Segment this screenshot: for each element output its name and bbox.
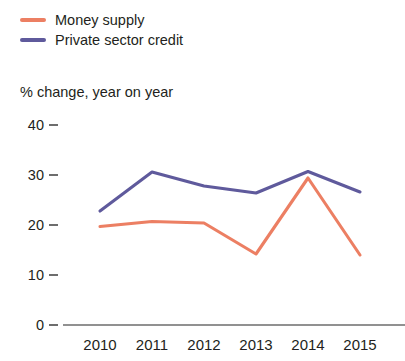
chart-container: Money supply Private sector credit % cha…: [0, 0, 405, 361]
plot-area: [0, 0, 405, 361]
series-line-private-sector-credit: [100, 172, 360, 212]
